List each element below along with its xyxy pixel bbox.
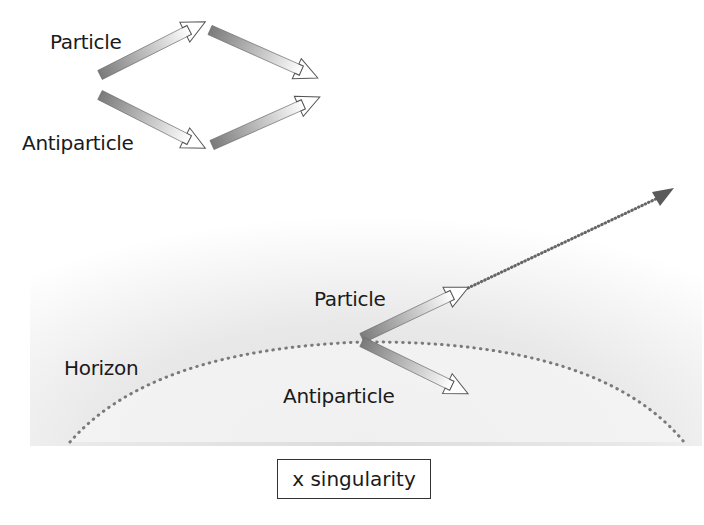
diagram-canvas	[0, 0, 704, 525]
bottom-antiparticle-label: Antiparticle	[283, 386, 395, 406]
horizon-label: Horizon	[64, 358, 138, 378]
singularity-label-box: x singularity	[277, 459, 431, 499]
top-particle-label: Particle	[50, 32, 122, 52]
top-particle-arrow-2	[206, 20, 323, 88]
bottom-particle-label: Particle	[314, 289, 386, 309]
top-antiparticle-label: Antiparticle	[22, 133, 134, 153]
hawking-radiation-diagram: Particle Antiparticle Particle Antiparti…	[0, 0, 704, 525]
singularity-label: x singularity	[292, 467, 416, 491]
